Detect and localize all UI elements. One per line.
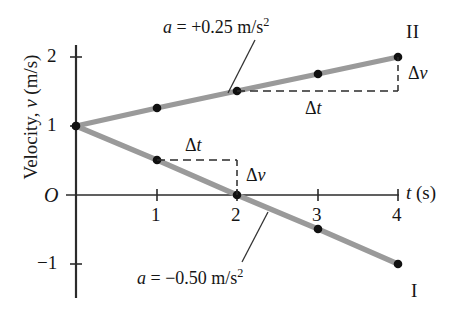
series-I-point bbox=[314, 225, 323, 234]
delta-v-upper-variable: v bbox=[420, 63, 428, 83]
y-axis-title-variable: v bbox=[20, 99, 41, 107]
annotation-acceleration-upper: a = +0.25 m/s2 bbox=[163, 18, 269, 36]
x-axis-title: t (s) bbox=[406, 183, 436, 202]
delta-v-lower-symbol: Δ bbox=[246, 165, 258, 185]
curve-label-II: II bbox=[406, 22, 420, 41]
x-tick-label-3: 3 bbox=[312, 205, 322, 224]
x-tick-label-1: 1 bbox=[151, 205, 161, 224]
delta-v-lower-label: Δv bbox=[246, 166, 266, 184]
x-tick-label-2: 2 bbox=[231, 205, 241, 224]
annotation-acceleration-lower-value: = −0.50 m/s bbox=[146, 268, 237, 288]
plot-canvas bbox=[0, 0, 453, 313]
delta-t-upper-label: Δt bbox=[305, 99, 322, 117]
delta-t-lower-symbol: Δ bbox=[185, 135, 197, 155]
leader-line-accel-lower bbox=[242, 212, 268, 262]
annotation-acceleration-upper-exponent: 2 bbox=[263, 15, 269, 29]
x-tick-label-4: 4 bbox=[392, 205, 402, 224]
y-tick-label-2: 2 bbox=[47, 46, 57, 65]
series-II-point bbox=[314, 70, 323, 79]
y-axis-title-prefix: Velocity, bbox=[20, 108, 41, 180]
y-axis-title-wrapper: Velocity, v (m/s) bbox=[20, 22, 46, 212]
y-axis-title: Velocity, v (m/s) bbox=[20, 55, 42, 180]
y-origin-label: O bbox=[44, 185, 58, 205]
delta-t-lower-variable: t bbox=[197, 135, 202, 155]
curve-label-I: I bbox=[411, 281, 418, 300]
annotation-acceleration-lower-exponent: 2 bbox=[237, 266, 243, 280]
y-axis-title-unit: (m/s) bbox=[20, 55, 41, 100]
y-tick-label-neg1: −1 bbox=[37, 253, 57, 272]
delta-t-upper-variable: t bbox=[317, 98, 322, 118]
x-axis-title-unit: (s) bbox=[411, 182, 436, 203]
series-II-point bbox=[153, 104, 162, 113]
delta-v-upper-symbol: Δ bbox=[408, 63, 420, 83]
delta-v-lower-variable: v bbox=[258, 165, 266, 185]
velocity-time-graph-figure: Velocity, v (m/s) t (s) 2 1 O −1 1 2 3 4… bbox=[0, 0, 453, 313]
series-I-point bbox=[394, 260, 403, 269]
annotation-acceleration-lower: a = −0.50 m/s2 bbox=[137, 269, 243, 287]
annotation-acceleration-upper-value: = +0.25 m/s bbox=[172, 17, 263, 37]
delta-t-upper-symbol: Δ bbox=[305, 98, 317, 118]
delta-t-lower-label: Δt bbox=[185, 136, 202, 154]
delta-v-upper-label: Δv bbox=[408, 64, 428, 82]
series-I-point bbox=[72, 122, 81, 131]
annotation-acceleration-lower-variable: a bbox=[137, 268, 146, 288]
leader-line-accel-upper bbox=[228, 40, 255, 93]
annotation-acceleration-upper-variable: a bbox=[163, 17, 172, 37]
y-tick-label-1: 1 bbox=[47, 115, 57, 134]
